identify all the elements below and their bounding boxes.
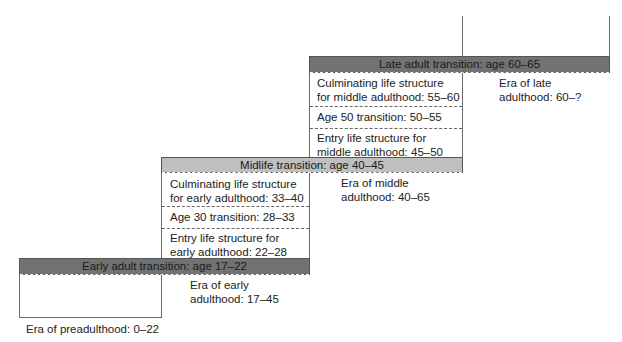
era-early-adulthood-label: Era of early adulthood: 17–45 [190, 278, 279, 306]
era-line: Era of early [190, 278, 279, 292]
stage-divider [162, 206, 309, 207]
stage-line: Entry life structure for [170, 231, 287, 245]
stage-age-50-transition: Age 50 transition: 50–55 [309, 110, 442, 124]
stage-line: Culminating life structure [170, 177, 304, 191]
late-era-left-line [462, 16, 463, 58]
late-adult-transition-bar: Late adult transition: age 60–65 [309, 56, 610, 73]
late-era-right-line [609, 16, 610, 58]
midlife-transition-bar: Midlife transition: age 40–45 [161, 157, 463, 173]
era-preadulthood-label: Era of preadulthood: 0–22 [26, 322, 159, 336]
era-line: adulthood: 17–45 [190, 292, 279, 306]
stage-divider [310, 128, 462, 129]
era-line: adulthood: 60–? [499, 90, 582, 104]
stage-line: early adulthood: 22–28 [170, 245, 287, 259]
era-line: Era of late [499, 76, 582, 90]
stage-entry-early: Entry life structure for early adulthood… [162, 231, 287, 259]
era-middle-adulthood-label: Era of middle adulthood: 40–65 [341, 176, 430, 204]
stage-culminating-middle: Culminating life structure for middle ad… [309, 76, 460, 104]
era-line: Era of middle [341, 176, 430, 190]
stage-line: Entry life structure for [317, 131, 443, 145]
stage-divider [310, 106, 462, 107]
early-adult-transition-bar: Early adult transition: age 17–22 [19, 258, 310, 275]
stage-culminating-early: Culminating life structure for early adu… [162, 177, 304, 205]
stage-age-30-transition: Age 30 transition: 28–33 [162, 210, 295, 224]
stage-line: for early adulthood: 33–40 [170, 191, 304, 205]
era-line: adulthood: 40–65 [341, 190, 430, 204]
stage-entry-middle: Entry life structure for middle adulthoo… [309, 131, 443, 159]
stage-line: for middle adulthood: 55–60 [317, 90, 460, 104]
era-late-adulthood-label: Era of late adulthood: 60–? [499, 76, 582, 104]
stage-divider [162, 228, 309, 229]
stage-line: Culminating life structure [317, 76, 460, 90]
